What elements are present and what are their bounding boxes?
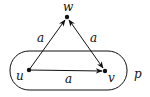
edge-u-w <box>29 20 65 70</box>
edge-u-v-label: a <box>65 72 72 86</box>
node-w <box>65 15 69 19</box>
node-v-label: v <box>108 71 115 85</box>
node-v <box>103 69 107 73</box>
edge-u-w-label: a <box>37 31 44 45</box>
graph-diagram: w u v a a a p <box>0 0 150 97</box>
node-u-label: u <box>16 69 24 83</box>
region-p-label: p <box>134 67 142 81</box>
node-u <box>27 68 31 72</box>
node-w-label: w <box>63 0 74 14</box>
edge-w-v <box>69 20 103 68</box>
edge-u-v <box>29 70 102 71</box>
edge-w-v-label: a <box>90 31 97 45</box>
